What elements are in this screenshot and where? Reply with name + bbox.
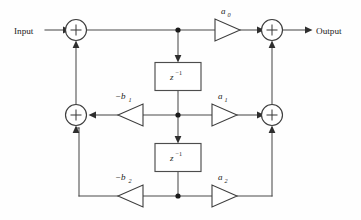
arrowhead-into-delay2 xyxy=(175,136,182,144)
arrowhead-into-output xyxy=(305,27,313,34)
gain-triangle-a2 xyxy=(212,185,237,207)
gain-label-a1-base: a xyxy=(218,91,223,101)
gain-label-a2-base: a xyxy=(218,172,223,182)
arrowhead-up-into-top-left-adder xyxy=(73,41,80,49)
gain-label-b2: −b 2 xyxy=(115,172,132,184)
gain-label-b1-sub: 1 xyxy=(129,96,132,103)
arrowhead-up-into-mid-left-adder xyxy=(73,126,80,134)
gain-label-a2-sub: 2 xyxy=(225,177,228,184)
delay-block-2 xyxy=(155,144,201,172)
arrowhead-into-mid-left-adder xyxy=(89,112,97,119)
node-dot-top xyxy=(175,27,180,32)
adder-mid-right xyxy=(262,105,283,126)
gain-triangle-a1 xyxy=(212,104,237,126)
delay-label-1-exp: −1 xyxy=(176,69,183,76)
input-label: Input xyxy=(14,26,34,36)
delay-label-1-base: z xyxy=(169,72,174,82)
adder-top-right xyxy=(262,20,283,41)
arrowhead-up-into-mid-right-adder xyxy=(269,126,276,134)
gain-triangle-a0 xyxy=(215,19,240,41)
arrowhead-into-delay1 xyxy=(175,55,182,63)
gain-label-a0-base: a xyxy=(221,6,226,16)
adder-mid-left xyxy=(66,105,87,126)
signal-flow-graph: Input Output a 0 −b 1 a 1 −b 2 a 2 z −1 … xyxy=(0,0,361,220)
gain-label-b2-sub: 2 xyxy=(129,177,132,184)
gain-triangle-b1 xyxy=(118,104,143,126)
delay-block-1 xyxy=(155,63,201,91)
gain-label-a0-sub: 0 xyxy=(228,11,232,18)
node-dot-bottom xyxy=(175,193,180,198)
gain-label-a1: a 1 xyxy=(218,91,228,103)
gain-label-b1-base: −b xyxy=(115,91,126,101)
adder-top-left xyxy=(66,20,87,41)
output-label: Output xyxy=(316,26,342,36)
filter-diagram: Input Output a 0 −b 1 a 1 −b 2 a 2 z −1 … xyxy=(0,0,361,220)
delay-label-2-exp: −1 xyxy=(176,150,183,157)
delay-label-2-base: z xyxy=(169,153,174,163)
gain-label-a1-sub: 1 xyxy=(225,96,228,103)
gain-triangle-b2 xyxy=(118,185,143,207)
gain-label-a2: a 2 xyxy=(218,172,228,184)
node-dot-middle xyxy=(175,112,180,117)
gain-label-a0: a 0 xyxy=(221,6,232,18)
gain-label-b1: −b 1 xyxy=(115,91,132,103)
gain-label-b2-base: −b xyxy=(115,172,126,182)
arrowhead-up-into-top-right-adder xyxy=(269,41,276,49)
